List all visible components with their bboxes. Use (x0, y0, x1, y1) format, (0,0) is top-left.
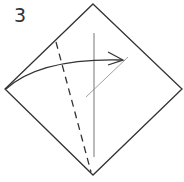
arrowhead-icon (108, 52, 123, 65)
fold-target-line (86, 57, 128, 97)
fold-arrow (6, 60, 122, 89)
fold-diagram (0, 0, 184, 182)
